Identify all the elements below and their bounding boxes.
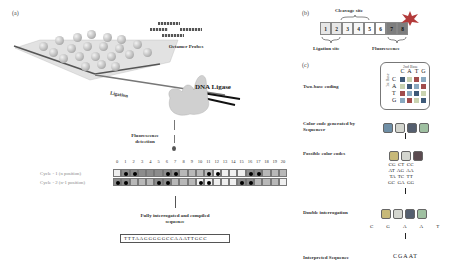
base-letter: A (420, 224, 424, 229)
codes-row: GC GA GG (388, 180, 414, 186)
color-block-yellow (389, 151, 399, 161)
matrix-cell (420, 97, 427, 104)
octamer-probes-graphic (150, 22, 210, 42)
cycle-cell (279, 169, 287, 177)
cycle-cell (154, 178, 162, 186)
cycle-cell (163, 169, 171, 177)
cycle-cell (146, 169, 154, 177)
signal-dot (166, 172, 170, 176)
matrix-cell (406, 90, 413, 97)
base-letter: T (436, 224, 439, 229)
cycle-index: 2 (130, 159, 138, 164)
matrix-cell (406, 97, 413, 104)
matrix-cell (399, 76, 406, 83)
color-block-light (395, 123, 405, 133)
color-block-dark (405, 209, 415, 219)
signal-dot (249, 172, 253, 176)
signal-dot (124, 181, 128, 185)
matrix-cell (420, 90, 427, 97)
signal-dot (199, 181, 203, 185)
connector-line (174, 135, 175, 143)
cycle-cell (204, 169, 212, 177)
base-letter: A (403, 224, 407, 229)
octamer-probes-label: Octamer Probes (166, 44, 206, 50)
cycle-index: 1 (121, 159, 129, 164)
first-base-letter: G (392, 97, 396, 104)
signal-dot (174, 172, 178, 176)
cycle-cell (179, 169, 187, 177)
cycle-index: 20 (279, 159, 287, 164)
double-letters: CGAAT (370, 224, 439, 229)
matrix-cell (420, 76, 427, 83)
cycle-cell (229, 169, 237, 177)
cycle-cell (171, 169, 179, 177)
cycle-cell (213, 169, 221, 177)
color-block-dark (407, 123, 417, 133)
double-interrogation-label: Double interrogation (303, 210, 348, 215)
matrix-cell (413, 90, 420, 97)
probe-position: 5 (364, 22, 375, 35)
cycle-index: 9 (188, 159, 196, 164)
arrow-down-icon (405, 188, 406, 194)
cycle-cell (237, 178, 245, 186)
cycle-index: 13 (221, 159, 229, 164)
color-block-green (419, 123, 429, 133)
cleavage-brace (340, 15, 370, 21)
cycle1-label: Cycle - 1 (n position) (40, 171, 81, 176)
cycle-cell (262, 169, 270, 177)
matrix-cell (399, 97, 406, 104)
cycle-cell (262, 178, 270, 186)
cycle-cell (279, 178, 287, 186)
dna-ligase-label: DNA Ligase (195, 83, 231, 91)
cycle-index: 4 (146, 159, 154, 164)
cycle-index: 8 (179, 159, 187, 164)
cycle-cell (130, 169, 138, 177)
cycle-cell (188, 169, 196, 177)
cycle-cell (246, 169, 254, 177)
connector-line (175, 196, 176, 208)
color-code-blocks (383, 119, 431, 137)
cycle-cell (254, 169, 262, 177)
cycle-cell (221, 178, 229, 186)
arrow-down-icon (405, 233, 406, 239)
fluorophore-burst-icon (400, 10, 420, 26)
signal-dot (124, 172, 128, 176)
cycle-cell (113, 178, 121, 186)
matrix-cell (413, 97, 420, 104)
matrix-cell (406, 76, 413, 83)
matrix-cell (406, 83, 413, 90)
double-interrogation-blocks (381, 205, 429, 223)
compiled-sequence-label: Fully interrogated and compiled sequence (135, 213, 215, 225)
cycle-index: 7 (171, 159, 179, 164)
possible-codes-grid: CG CT CCAT AG AATA TC TTGC GA GG (388, 162, 414, 186)
connector-line (174, 120, 175, 130)
cycle-index: 17 (254, 159, 262, 164)
cycle-cell (121, 169, 129, 177)
second-base-letter: T (413, 68, 420, 75)
cycle-cell (221, 169, 229, 177)
cycle-cell (271, 178, 279, 186)
cycle-cell (229, 178, 237, 186)
first-base-letter: T (392, 90, 396, 97)
cycle-cell (196, 178, 204, 186)
arrow-down-icon (405, 133, 406, 139)
cycle-cell (179, 178, 187, 186)
matrix-cell (413, 76, 420, 83)
signal-dot (240, 181, 244, 185)
cycle-index: 3 (138, 159, 146, 164)
two-base-coding-label: Two-base coding (303, 84, 339, 89)
probe-position: 2 (331, 22, 342, 35)
probe-position: 7 (386, 22, 397, 35)
cycle-index: 15 (237, 159, 245, 164)
color-code-label: Color code generated by Sequencer (303, 121, 373, 133)
cycle-cell (213, 178, 221, 186)
cleavage-site-label: Cleavage site (335, 8, 363, 13)
interpreted-sequence: CGAAT (393, 253, 418, 259)
color-block-blue (383, 123, 393, 133)
base-letter: G (386, 224, 390, 229)
signal-dot (216, 172, 220, 176)
matrix-cell (413, 83, 420, 90)
cycle-index: 6 (163, 159, 171, 164)
interpreted-sequence-label: Interpreted Sequence (303, 255, 349, 260)
panel-c-letter: (c) (302, 62, 309, 68)
